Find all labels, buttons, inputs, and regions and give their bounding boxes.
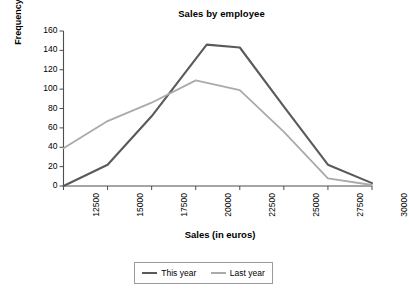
legend-swatch-this-year <box>142 272 157 274</box>
series-line-last-year <box>64 80 373 185</box>
series-line-this-year <box>64 45 373 186</box>
legend-label-last-year: Last year <box>230 268 265 278</box>
chart-legend: This year Last year <box>134 262 273 284</box>
legend-swatch-last-year <box>211 272 226 274</box>
data-series-group <box>64 45 373 186</box>
legend-label-this-year: This year <box>161 268 196 278</box>
legend-item-last-year: Last year <box>211 268 265 278</box>
legend-item-this-year: This year <box>142 268 196 278</box>
